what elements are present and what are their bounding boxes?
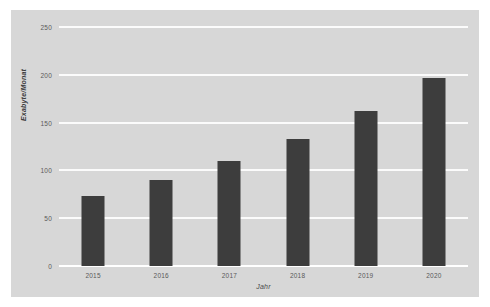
bar-chart: Exabyte/Monat 050100150200250 2015201620…: [0, 0, 490, 307]
chart-canvas: Exabyte/Monat 050100150200250 2015201620…: [11, 10, 479, 297]
bar: [286, 139, 309, 266]
x-tick-label: 2015: [85, 272, 100, 279]
bar-group: 2016: [127, 27, 195, 266]
bars-layer: 201520162017201820192020: [59, 27, 468, 266]
bar-group: 2018: [264, 27, 332, 266]
bar: [354, 111, 377, 266]
y-tick-label: 50: [44, 215, 52, 222]
x-tick-label: 2018: [290, 272, 305, 279]
bar: [422, 78, 445, 266]
bar-group: 2019: [332, 27, 400, 266]
y-tick-label: 100: [41, 167, 52, 174]
x-tick-label: 2019: [358, 272, 373, 279]
bar: [82, 196, 105, 266]
y-axis-title: Exabyte/Monat: [20, 109, 27, 121]
x-tick-label: 2016: [154, 272, 169, 279]
bar: [218, 161, 241, 266]
x-tick-label: 2017: [222, 272, 237, 279]
bar: [150, 180, 173, 266]
y-tick-label: 200: [41, 71, 52, 78]
plot-area: 050100150200250 201520162017201820192020: [59, 27, 468, 266]
bar-group: 2020: [400, 27, 468, 266]
bar-group: 2017: [195, 27, 263, 266]
y-tick-label: 150: [41, 119, 52, 126]
y-tick-label: 250: [41, 24, 52, 31]
bar-group: 2015: [59, 27, 127, 266]
x-tick-label: 2020: [426, 272, 441, 279]
x-axis-title: Jahr: [59, 283, 468, 290]
y-tick-label: 0: [48, 263, 52, 270]
